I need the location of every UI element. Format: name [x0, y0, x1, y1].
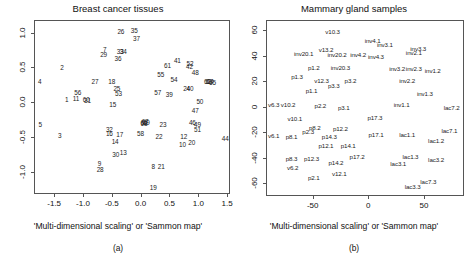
data-point-label: inv2.3 [406, 66, 422, 72]
data-point-label: lac3.2 [428, 157, 444, 163]
y-tick-label: -0.5 [18, 130, 27, 144]
data-point-label: lac7.3 [420, 178, 436, 184]
data-point-label: inv1.1 [394, 102, 410, 108]
data-point-label: 58 [137, 131, 144, 137]
data-point-label: lac7.2 [444, 105, 460, 111]
panel-b-title: Mammary gland samples [236, 3, 472, 14]
data-point-label: p8.1 [286, 134, 298, 140]
data-point-label: 55 [157, 72, 164, 78]
panel-b-plot-area: v10.3inv4.1inv3.1inv3.3v13.2inv2.1inv20.… [266, 20, 464, 196]
data-point-label: p12.2 [333, 126, 348, 132]
x-tick-mark [227, 194, 228, 197]
panel-mammary-gland-samples: Mammary gland samples v10.3inv4.1inv3.1i… [236, 0, 472, 262]
data-point-label: inv1.3 [417, 90, 433, 96]
data-point-label: 51 [194, 126, 201, 132]
data-point-label: 60 [83, 97, 90, 103]
data-point-label: lac3.1 [390, 161, 406, 167]
data-point-label: lac7.1 [441, 127, 457, 133]
data-point-label: v6.2 [287, 164, 298, 170]
x-tick-label: 0.0 [135, 199, 146, 208]
data-point-label: inv2.2 [399, 78, 415, 84]
y-tick-mark [263, 81, 266, 82]
data-point-label: 44 [222, 136, 229, 142]
data-point-label: p8.3 [286, 156, 298, 162]
data-point-label: 65 [209, 80, 216, 86]
data-point-label: inv2.1 [406, 50, 422, 56]
data-point-label: 27 [91, 79, 98, 85]
data-point-label: 41 [174, 58, 181, 64]
x-tick-mark [141, 194, 142, 197]
y-tick-label: 1.0 [18, 27, 27, 38]
y-tick-label: 20 [250, 77, 259, 86]
x-tick-label: 50 [420, 201, 429, 210]
y-tick-label: -60 [250, 177, 259, 189]
panel-a-points-layer: 2635377333429364152614224855544271862636… [35, 21, 229, 193]
data-point-label: 61 [164, 63, 171, 69]
y-tick-mark [31, 67, 34, 68]
data-point-label: inv20.1 [294, 51, 313, 57]
panel-a-subcaption: (a) [0, 243, 236, 253]
data-point-label: lac3.3 [405, 184, 421, 190]
data-point-label: 53 [115, 91, 122, 97]
data-point-label: 35 [131, 28, 138, 34]
y-tick-mark [31, 33, 34, 34]
data-point-label: p2.3 [302, 129, 314, 135]
panel-b-subcaption: (b) [236, 243, 472, 253]
y-tick-label: 0 [250, 104, 259, 108]
data-point-label: 22 [155, 133, 162, 139]
data-point-label: p3.3 [328, 83, 340, 89]
data-point-label: 40 [187, 85, 194, 91]
data-point-label: p1.2 [308, 65, 320, 71]
y-tick-label: -20 [250, 126, 259, 138]
data-point-label: p17.2 [350, 154, 365, 160]
data-point-label: inv4.2 [350, 52, 366, 58]
data-point-label: v10.2 [281, 102, 296, 108]
figure-root: Breast cancer tissues 263537733342936415… [0, 0, 472, 262]
x-tick-mark [424, 196, 425, 199]
y-tick-mark [263, 158, 266, 159]
data-point-label: 16 [106, 131, 113, 137]
data-point-label: 30 [112, 151, 119, 157]
data-point-label: 57 [154, 89, 161, 95]
data-point-label: 8 [151, 164, 154, 170]
x-tick-label: -1.0 [76, 199, 90, 208]
data-point-label: 26 [117, 29, 124, 35]
y-tick-mark [31, 102, 34, 103]
x-tick-mark [198, 194, 199, 197]
data-point-label: 20 [188, 140, 195, 146]
panel-a-axis-caption: 'Multi-dimensional scaling' or 'Sammon m… [0, 221, 236, 231]
y-tick-mark [263, 183, 266, 184]
data-point-label: inv1.2 [425, 68, 441, 74]
data-point-label: inv3.1 [377, 42, 393, 48]
data-point-label: 5 [38, 121, 41, 127]
y-tick-mark [31, 172, 34, 173]
y-tick-mark [263, 30, 266, 31]
data-point-label: p2.2 [315, 103, 327, 109]
data-point-label: p12.3 [304, 156, 319, 162]
data-point-label: inv20.3 [331, 65, 350, 71]
y-tick-mark [263, 132, 266, 133]
data-point-label: v12.1 [332, 171, 347, 177]
data-point-label: lac1.2 [428, 138, 444, 144]
y-tick-mark [31, 137, 34, 138]
x-tick-mark [54, 194, 55, 197]
x-tick-mark [368, 196, 369, 199]
y-tick-mark [263, 107, 266, 108]
y-tick-mark [263, 56, 266, 57]
data-point-label: 39 [166, 92, 173, 98]
x-tick-label: -0.5 [105, 199, 119, 208]
x-tick-mark [169, 194, 170, 197]
panel-breast-cancer-tissues: Breast cancer tissues 263537733342936415… [0, 0, 236, 262]
data-point-label: 19 [150, 185, 157, 191]
data-point-label: 4 [38, 79, 41, 85]
data-point-label: lac1.1 [399, 131, 415, 137]
data-point-label: 50 [196, 99, 203, 105]
data-point-label: p12.1 [318, 143, 333, 149]
data-point-label: 23 [160, 121, 167, 127]
y-tick-label: 0.0 [18, 97, 27, 108]
data-point-label: 48 [192, 70, 199, 76]
panel-a-plot-area: 2635377333429364152614224855544271862636… [34, 20, 230, 194]
data-point-label: p14.3 [322, 134, 337, 140]
data-point-label: p17.3 [367, 115, 382, 121]
y-tick-label: 40 [250, 51, 259, 60]
